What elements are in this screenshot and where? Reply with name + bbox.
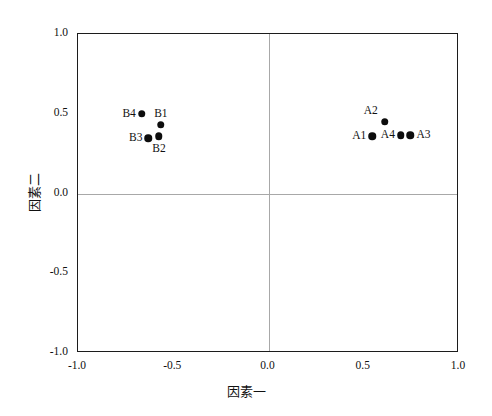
data-point-a1: [369, 132, 377, 140]
y-tick-1: -0.5: [36, 267, 68, 279]
point-label-b2: B2: [152, 143, 165, 155]
point-label-a1: A1: [352, 130, 366, 142]
x-tick-4: 1.0: [451, 360, 465, 372]
point-label-b1: B1: [154, 107, 167, 119]
x-tick-2: 0.0: [260, 360, 274, 372]
point-label-a2: A2: [364, 104, 378, 116]
x-tick-3: 0.5: [356, 360, 370, 372]
data-point-a4: [397, 132, 405, 140]
y-tick-3: 0.5: [36, 107, 68, 119]
point-label-b3: B3: [129, 133, 142, 145]
vertical-zero-reference-line: [269, 34, 270, 351]
data-point-a2: [381, 118, 389, 126]
point-label-b4: B4: [122, 108, 135, 120]
data-point-b1: [157, 121, 165, 129]
y-axis-title: 因素二: [24, 173, 43, 212]
data-point-b4: [138, 110, 146, 118]
data-point-a3: [407, 132, 415, 140]
x-tick-0: -1.0: [68, 360, 86, 372]
data-point-b3: [145, 135, 153, 143]
x-tick-1: -0.5: [163, 360, 181, 372]
y-tick-0: -1.0: [36, 346, 68, 358]
point-label-a3: A3: [416, 130, 430, 142]
scatter-plot-figure: B4B1B3B2A2A1A4A3 -1.0-0.50.00.51.0 -1.0-…: [0, 0, 492, 416]
point-label-a4: A4: [381, 130, 395, 142]
x-axis-title: 因素一: [0, 381, 492, 400]
plot-area: B4B1B3B2A2A1A4A3: [77, 33, 458, 352]
horizontal-zero-reference-line: [78, 194, 457, 195]
y-tick-4: 1.0: [36, 27, 68, 39]
data-point-b2: [155, 132, 163, 140]
